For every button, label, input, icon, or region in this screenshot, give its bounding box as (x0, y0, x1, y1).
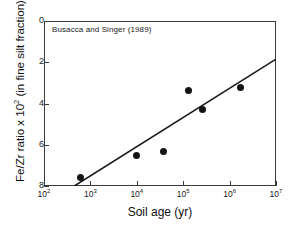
x-tick-mantissa: 10 (130, 189, 139, 199)
x-tick-exponent: 6 (233, 188, 236, 194)
x-axis-tick (183, 181, 184, 186)
x-axis-tick (276, 181, 277, 186)
x-tick-exponent: 3 (93, 188, 96, 194)
y-axis-tick-label: 6 (24, 140, 44, 149)
x-tick-exponent: 7 (279, 188, 282, 194)
x-tick-mantissa: 10 (38, 189, 47, 199)
y-axis-tick-label: 4 (24, 99, 44, 108)
x-axis-tick-label: 106 (217, 188, 243, 198)
x-axis-tick (137, 181, 138, 186)
y-axis-tick (44, 186, 49, 187)
figure-scatter-plot: Busacca and Singer (1989) Fe/Zr ratio x … (0, 0, 297, 234)
plot-frame (44, 21, 276, 186)
y-axis-tick (44, 21, 49, 22)
x-axis-tick-label: 104 (124, 188, 150, 198)
x-axis-tick-label: 107 (263, 188, 289, 198)
y-axis-tick-label: 2 (24, 57, 44, 66)
y-axis-tick-label: 0 (24, 16, 44, 25)
x-axis-tick (230, 181, 231, 186)
x-axis-title: Soil age (yr) (44, 205, 276, 219)
x-tick-exponent: 2 (47, 188, 50, 194)
x-tick-mantissa: 10 (223, 189, 232, 199)
x-axis-tick (90, 181, 91, 186)
x-tick-exponent: 5 (186, 188, 189, 194)
x-axis-tick-label: 105 (170, 188, 196, 198)
y-axis-title-exponent: 2 (12, 100, 21, 104)
x-axis-tick-label: 103 (77, 188, 103, 198)
x-tick-exponent: 4 (140, 188, 143, 194)
x-tick-mantissa: 10 (177, 189, 186, 199)
x-tick-mantissa: 10 (270, 189, 279, 199)
y-axis-title: Fe/Zr ratio x 102 (in fine silt fraction… (12, 12, 26, 182)
y-axis-tick (44, 62, 49, 63)
plot-annotation: Busacca and Singer (1989) (52, 25, 151, 34)
y-axis-tick-label: 8 (24, 181, 44, 190)
y-axis-tick (44, 104, 49, 105)
y-axis-tick (44, 145, 49, 146)
